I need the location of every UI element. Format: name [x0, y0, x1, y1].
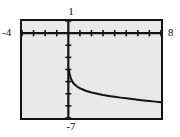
- figure-viewport: -4 8 1 -7: [0, 0, 180, 137]
- x-axis-min-label: -4: [2, 27, 11, 38]
- y-axis: [65, 21, 71, 118]
- y-axis-max-label: 1: [64, 6, 78, 17]
- function-curve: [69, 71, 161, 103]
- plot-frame: [20, 19, 163, 120]
- x-axis: [22, 30, 161, 36]
- x-axis-max-label: 8: [168, 27, 174, 38]
- plot-canvas: [22, 21, 161, 118]
- y-axis-min-label: -7: [62, 121, 80, 132]
